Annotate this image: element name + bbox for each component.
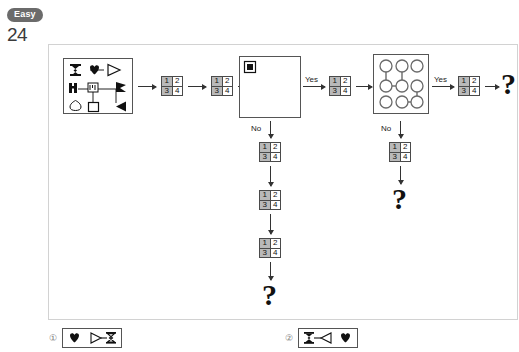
question-mark-right: ? [392,184,407,214]
number-grid-e: 1 2 3 4 [259,142,281,162]
hourglass-symbol [304,332,314,344]
option-1-symbols [63,329,121,347]
arrow-right-1 [138,86,156,87]
branch-label-yes-2: Yes [434,76,447,84]
number-grid-c: 1 2 3 4 [329,76,351,96]
numgrid-cell: 4 [341,87,351,96]
numgrid-cell: 2 [223,77,233,86]
symbol-grid-svg [64,59,132,113]
numgrid-cell: 3 [260,249,270,258]
hourglass-symbol [70,64,81,76]
numgrid-cell: 4 [271,201,281,210]
arrow-yes-1 [303,86,325,87]
number-grid-h: 1 2 3 4 [389,142,411,162]
numgrid-cell: 1 [390,143,400,152]
heart-symbol [90,65,99,74]
numgrid-cell: 2 [271,239,281,248]
symbol-grid-box [63,58,133,114]
question-number: 24 [7,24,27,46]
number-grid-a: 1 2 3 4 [161,76,183,96]
flag-symbol [116,82,126,92]
numgrid-cell: 4 [173,87,183,96]
decision-box [239,56,301,118]
numgrid-cell: 2 [271,191,281,200]
difficulty-badge: Easy [7,8,43,22]
numgrid-cell: 3 [390,153,400,162]
numgrid-cell: 1 [260,239,270,248]
option-2-symbols [299,329,357,347]
numgrid-cell: 2 [470,77,480,86]
option-number-1: ① [49,334,57,343]
number-grid-f: 1 2 3 4 [259,190,281,210]
option-number-2: ② [285,334,293,343]
numgrid-cell: 2 [341,77,351,86]
option-box-2[interactable] [298,328,358,348]
arrow-right-4 [356,86,372,87]
numgrid-cell: 1 [162,77,172,86]
numgrid-cell: 1 [260,143,270,152]
puzzle-page: Easy 24 [0,0,519,352]
arrow-yes-2 [432,86,454,87]
numgrid-cell: 2 [271,143,281,152]
branch-label-no-1: No [251,125,261,133]
branch-label-no-2: No [381,125,391,133]
numgrid-cell: 4 [271,153,281,162]
triangle-left-symbol [321,333,331,343]
numgrid-cell: 2 [173,77,183,86]
numgrid-cell: 1 [330,77,340,86]
drop-symbol [70,101,81,111]
numgrid-cell: 4 [223,87,233,96]
bracket-left-symbol [69,83,77,93]
numgrid-cell: 1 [459,77,469,86]
circle-grid-svg [374,55,428,113]
arrow-down-1 [270,166,271,186]
heart-symbol [70,333,79,342]
number-grid-g: 1 2 3 4 [259,238,281,258]
numgrid-cell: 3 [212,87,222,96]
heart-symbol [341,333,350,342]
circle-grid-box [373,54,429,114]
hourglass-symbol [106,332,116,344]
numgrid-cell: 3 [330,87,340,96]
filled-square-icon [244,61,256,73]
numgrid-cell: 3 [260,153,270,162]
bracket-small-symbol [88,83,98,92]
branch-label-yes-1: Yes [305,76,318,84]
numgrid-cell: 3 [162,87,172,96]
arrow-down-2 [270,214,271,234]
numgrid-cell: 1 [212,77,222,86]
numgrid-cell: 4 [470,87,480,96]
numgrid-cell: 3 [459,87,469,96]
number-grid-d: 1 2 3 4 [458,76,480,96]
puzzle-panel: 1 2 3 4 1 2 3 4 Yes 1 2 [48,44,518,320]
question-mark-left: ? [262,280,277,310]
numgrid-cell: 1 [260,191,270,200]
numgrid-cell: 2 [401,143,411,152]
question-mark-final: ? [501,69,516,99]
arrow-right-5 [485,86,499,87]
arrow-no-1 [270,121,271,138]
number-grid-b: 1 2 3 4 [211,76,233,96]
numgrid-cell: 4 [271,249,281,258]
square-symbol [89,103,99,112]
option-box-1[interactable] [62,328,122,348]
triangle-right-symbol [108,65,120,76]
numgrid-cell: 3 [260,201,270,210]
arrow-no-2 [400,121,401,138]
triangle-left-symbol [116,102,126,112]
numgrid-cell: 4 [401,153,411,162]
arrow-right-2 [188,86,206,87]
triangle-right-symbol [91,333,101,343]
